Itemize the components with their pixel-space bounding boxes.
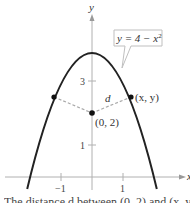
axis-ticks: −1 1 1 3 xyxy=(55,76,125,194)
left-point xyxy=(51,94,56,99)
equation-callout: y = 4 − x2 xyxy=(114,30,162,68)
center-point-label: (0, 2) xyxy=(95,116,119,129)
tick-label-y3: 3 xyxy=(80,76,85,87)
distance-label: d xyxy=(105,92,111,104)
parabola-chart: y x −1 1 1 3 (0, 2) (x, y) d y = 4 − x2 xyxy=(0,0,190,203)
equation-label: y = 4 − x2 xyxy=(116,32,162,44)
point-0-2 xyxy=(89,110,95,116)
tick-label-y1: 1 xyxy=(80,140,85,151)
curve-point-label: (x, y) xyxy=(135,91,159,104)
y-axis-label: y xyxy=(88,1,94,13)
figure-caption: The distance d between (0, 2) and (x, y) xyxy=(4,192,190,203)
x-axis: x xyxy=(5,170,190,182)
point-x-y xyxy=(128,94,133,99)
x-axis-label: x xyxy=(186,170,190,182)
y-axis: y xyxy=(88,1,95,190)
